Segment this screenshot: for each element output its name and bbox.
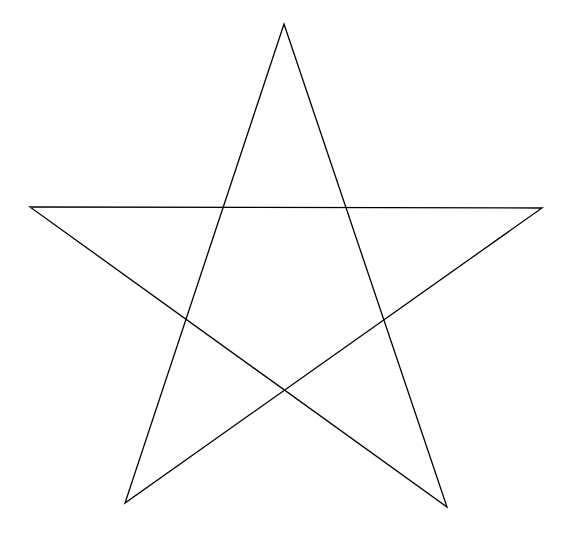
star-outline xyxy=(30,24,542,507)
pentagram-star xyxy=(0,0,568,535)
diagram-canvas xyxy=(0,0,568,535)
